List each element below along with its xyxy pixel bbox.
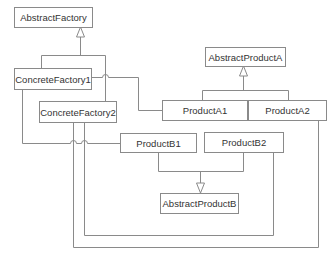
class-boxes: AbstractFactoryConcreteFactory1ConcreteF… (15, 8, 327, 214)
uml-diagram: AbstractFactoryConcreteFactory1ConcreteF… (0, 0, 335, 262)
class-box-concrete-factory-2[interactable]: ConcreteFactory2 (40, 102, 117, 123)
class-name: AbstractProductB (163, 198, 237, 209)
hollow-triangle-arrow-icon (240, 66, 248, 76)
class-box-product-a1[interactable]: ProductA1 (163, 101, 248, 121)
class-name: ProductB2 (222, 137, 266, 148)
class-name: AbstractProductA (209, 52, 284, 63)
class-name: AbstractFactory (20, 12, 87, 23)
inheritance-products-a-to-abstract-product-a (203, 66, 289, 100)
class-name: ProductA1 (183, 105, 227, 116)
inheritance-products-b-to-abstract-product-b (159, 152, 244, 193)
class-name: ConcreteFactory2 (40, 107, 116, 118)
class-name: ProductB1 (136, 138, 180, 149)
class-box-concrete-factory-1[interactable]: ConcreteFactory1 (15, 69, 92, 90)
class-box-abstract-product-b[interactable]: AbstractProductB (161, 194, 239, 214)
class-name: ProductA2 (265, 105, 309, 116)
hollow-triangle-arrow-icon (77, 27, 85, 37)
hollow-triangle-arrow-icon (197, 183, 205, 193)
class-box-product-a2[interactable]: ProductA2 (249, 101, 327, 121)
class-box-abstract-factory[interactable]: AbstractFactory (15, 8, 93, 28)
class-name: ConcreteFactory1 (15, 74, 91, 85)
class-box-abstract-product-a[interactable]: AbstractProductA (206, 48, 286, 67)
class-box-product-b2[interactable]: ProductB2 (205, 133, 284, 153)
class-box-product-b1[interactable]: ProductB1 (121, 134, 197, 153)
